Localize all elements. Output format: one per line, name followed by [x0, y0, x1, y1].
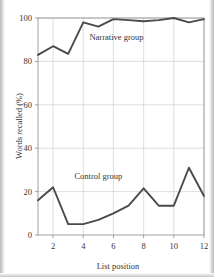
x-axis-tick-label: 6 — [111, 241, 115, 251]
y-axis-tick-label: 40 — [24, 143, 33, 153]
series-annotation-control-group: Control group — [74, 171, 122, 181]
y-axis-tick-label: 80 — [24, 56, 33, 66]
figure-page: 020406080100 24681012 Narrative groupCon… — [0, 0, 214, 277]
x-axis-tick-label: 4 — [81, 241, 86, 251]
chart-canvas: 020406080100 24681012 Narrative groupCon… — [0, 0, 214, 277]
x-axis-tick-labels: 24681012 — [51, 241, 208, 251]
x-axis-tick-label: 2 — [51, 241, 55, 251]
data-series — [38, 18, 204, 224]
series-annotation-narrative-group: Narrative group — [89, 32, 143, 42]
y-axis-tick-label: 20 — [24, 187, 33, 197]
series-annotations: Narrative groupControl group — [74, 32, 143, 181]
line-chart: 020406080100 24681012 Narrative groupCon… — [0, 0, 214, 277]
y-axis-tick-label: 100 — [19, 13, 32, 23]
y-axis-tick-label: 0 — [28, 230, 32, 240]
y-axis-title: Words recalled (%) — [14, 93, 24, 159]
x-axis-tick-label: 10 — [170, 241, 179, 251]
x-axis-tick-label: 8 — [142, 241, 146, 251]
y-axis-tick-label: 60 — [24, 100, 33, 110]
x-axis-tick-label: 12 — [200, 241, 209, 251]
x-axis-title: List position — [97, 261, 140, 271]
